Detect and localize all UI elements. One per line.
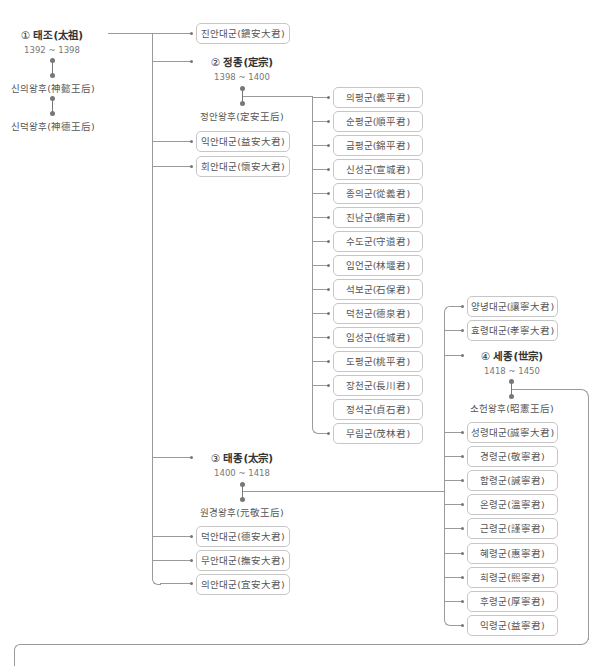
king-taejo-title: ①태조(太祖) bbox=[10, 27, 94, 42]
arrow-head-icon bbox=[327, 264, 330, 267]
arrow-head-icon bbox=[327, 216, 330, 219]
link-dot-icon bbox=[50, 111, 55, 116]
arrow-head-icon bbox=[461, 455, 464, 458]
arrow-head-icon bbox=[461, 329, 464, 332]
arrow-head-icon bbox=[327, 384, 330, 387]
person-box-jeongjong-child[interactable]: 종의군(從義君) bbox=[333, 183, 423, 204]
queen-jeongan: 정안왕후(定安王后) bbox=[186, 109, 298, 123]
person-box-taejong-child[interactable]: 후령군(厚寧君) bbox=[467, 591, 558, 612]
queen-soheon: 소헌왕후(昭憲王后) bbox=[455, 401, 569, 415]
person-box-muan[interactable]: 무안대군(撫安大君) bbox=[196, 550, 290, 571]
arrow-head-icon bbox=[190, 456, 193, 459]
person-box-jeongjong-child[interactable]: 금평군(錦平君) bbox=[333, 135, 423, 156]
connector-line bbox=[444, 528, 462, 529]
person-box-taejong-child[interactable]: 희령군(熙寧君) bbox=[467, 567, 558, 588]
king-taejong-years: 1400 ~ 1418 bbox=[196, 468, 288, 478]
person-box-uian[interactable]: 의안대군(宜安大君) bbox=[196, 574, 290, 595]
person-box-taejong-child[interactable]: 효령대군(孝寧大君) bbox=[467, 320, 558, 341]
arrow-head-icon bbox=[327, 432, 330, 435]
person-box-taejong-child[interactable]: 경령군(敬寧君) bbox=[467, 446, 558, 467]
connector-line bbox=[160, 583, 192, 584]
link-dot-icon bbox=[240, 101, 245, 106]
connector-line bbox=[152, 33, 192, 34]
arrow-head-icon bbox=[190, 559, 193, 562]
person-box-jeongjong-child[interactable]: 덕천군(德泉君) bbox=[333, 303, 423, 324]
connector-line bbox=[152, 560, 192, 561]
person-box-jeongjong-child[interactable]: 장천군(長川君) bbox=[333, 375, 423, 396]
person-box-jeongjong-child[interactable]: 석보군(石保君) bbox=[333, 279, 423, 300]
person-box-taejong-child[interactable]: 온령군(溫寧君) bbox=[467, 494, 558, 515]
connector-line bbox=[243, 96, 312, 97]
connector-line bbox=[152, 536, 192, 537]
queen-sindeok: 신덕왕후(神德王后) bbox=[0, 119, 106, 133]
connector-line bbox=[444, 577, 462, 578]
connector-line bbox=[444, 553, 462, 554]
person-box-jinan[interactable]: 진안대군(鎭安大君) bbox=[196, 23, 290, 44]
arrow-head-icon bbox=[461, 624, 464, 627]
person-box-jeongjong-child[interactable]: 정석군(貞石君) bbox=[333, 399, 423, 420]
person-box-ikan[interactable]: 익안대군(益安大君) bbox=[196, 131, 290, 152]
arrow-head-icon bbox=[327, 312, 330, 315]
connector-line bbox=[14, 644, 27, 666]
arrow-head-icon bbox=[461, 305, 464, 308]
person-box-jeongjong-child[interactable]: 수도군(守道君) bbox=[333, 231, 423, 252]
person-box-jeongjong-child[interactable]: 임성군(任城君) bbox=[333, 327, 423, 348]
king-taejong-title: ③태종(太宗) bbox=[196, 450, 288, 465]
arrow-head-icon bbox=[190, 535, 193, 538]
king-name: 태조(太祖) bbox=[33, 29, 83, 41]
arrow-head-icon bbox=[190, 582, 193, 585]
connector-line bbox=[243, 491, 444, 492]
person-box-jeongjong-child[interactable]: 신성군(宣城君) bbox=[333, 159, 423, 180]
person-box-jeongjong-child[interactable]: 의평군(義平君) bbox=[333, 87, 423, 108]
arrow-head-icon bbox=[461, 479, 464, 482]
person-box-jeongjong-child[interactable]: 임언군(林堰君) bbox=[333, 255, 423, 276]
arrow-head-icon bbox=[461, 600, 464, 603]
arrow-head-icon bbox=[461, 354, 464, 357]
person-box-taejong-child[interactable]: 익령군(益寧君) bbox=[467, 615, 558, 636]
queen-sinui: 신의왕후(神懿王后) bbox=[0, 81, 106, 95]
arrow-head-icon bbox=[461, 576, 464, 579]
arrow-head-icon bbox=[327, 288, 330, 291]
queen-wongyeong: 원경왕후(元敬王后) bbox=[186, 505, 298, 519]
person-box-jeongjong-child[interactable]: 무림군(茂林君) bbox=[333, 423, 423, 444]
connector-line bbox=[444, 480, 462, 481]
person-box-taejong-child[interactable]: 양녕대군(讓寧大君) bbox=[467, 296, 558, 317]
person-box-jeongjong-child[interactable]: 진남군(鎭南君) bbox=[333, 207, 423, 228]
person-box-taejong-child[interactable]: 혜령군(惠寧君) bbox=[467, 543, 558, 564]
connector-line bbox=[152, 166, 192, 167]
connector-line bbox=[152, 61, 192, 62]
connector-line bbox=[444, 456, 462, 457]
connector-line bbox=[444, 306, 453, 317]
arrow-head-icon bbox=[190, 32, 193, 35]
connector-line bbox=[444, 601, 462, 602]
person-box-taejong-child[interactable]: 성령대군(誠寧大君) bbox=[467, 422, 558, 443]
arrow-head-icon bbox=[327, 96, 330, 99]
king-sejong-title: ④세종(世宗) bbox=[467, 348, 557, 363]
connector-line bbox=[108, 33, 152, 34]
reign-number: ① bbox=[21, 29, 30, 41]
king-sejong-years: 1418 ~ 1450 bbox=[467, 366, 557, 376]
arrow-head-icon bbox=[327, 192, 330, 195]
arrow-head-icon bbox=[327, 144, 330, 147]
arrow-head-icon bbox=[461, 431, 464, 434]
connector-line bbox=[444, 504, 462, 505]
person-box-taejong-child[interactable]: 함령군(諴寧君) bbox=[467, 470, 558, 491]
reign-number: ② bbox=[211, 56, 220, 68]
arrow-head-icon bbox=[461, 552, 464, 555]
arrow-head-icon bbox=[327, 120, 330, 123]
king-taejo-years: 1392 ~ 1398 bbox=[10, 45, 94, 55]
person-box-deogan[interactable]: 덕안대군(德安大君) bbox=[196, 526, 290, 547]
arrow-head-icon bbox=[190, 140, 193, 143]
person-box-jeongjong-child[interactable]: 도평군(桃平君) bbox=[333, 351, 423, 372]
connector-line bbox=[152, 141, 192, 142]
arrow-head-icon bbox=[327, 168, 330, 171]
person-box-jeongjong-child[interactable]: 순평군(順平君) bbox=[333, 111, 423, 132]
person-box-hoean[interactable]: 회안대군(懷安大君) bbox=[196, 156, 290, 177]
person-box-taejong-child[interactable]: 근령군(謹寧君) bbox=[467, 518, 558, 539]
arrow-head-icon bbox=[461, 503, 464, 506]
connector-line bbox=[588, 400, 589, 640]
connector-line bbox=[444, 330, 462, 331]
connector-line bbox=[152, 33, 153, 578]
arrow-head-icon bbox=[327, 240, 330, 243]
connector-line bbox=[560, 630, 589, 645]
